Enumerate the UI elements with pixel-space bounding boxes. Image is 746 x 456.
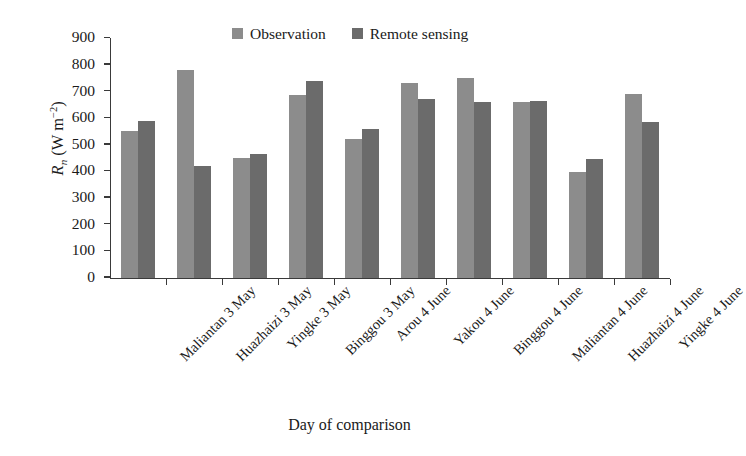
bar-observation — [345, 139, 362, 277]
bar-observation — [289, 95, 306, 277]
x-axis-category-label: Yakou 4 June — [451, 283, 517, 349]
y-axis-tick-label: 100 — [72, 243, 95, 259]
bar-observation — [625, 94, 642, 278]
y-axis-tick: 200 — [104, 223, 110, 224]
y-axis-tick: 600 — [104, 117, 110, 118]
y-axis-tick-label: 700 — [72, 83, 95, 99]
y-axis-tick: 100 — [104, 250, 110, 251]
y-axis-tick-label: 800 — [72, 56, 95, 72]
bar-remote-sensing — [642, 122, 659, 278]
y-axis-tick: 700 — [104, 90, 110, 91]
bar-remote-sensing — [586, 159, 603, 277]
bar-observation — [457, 78, 474, 278]
y-axis-line — [110, 38, 111, 279]
bar-remote-sensing — [530, 101, 547, 278]
plot-area: 9008007006005004003002001000 — [110, 38, 670, 279]
y-axis-tick-label: 200 — [72, 216, 95, 232]
bar-observation — [121, 131, 138, 277]
y-axis-tick-label: 600 — [72, 109, 95, 125]
y-axis-title: Rn (W m−2) — [49, 101, 70, 175]
bar-remote-sensing — [194, 166, 211, 278]
bar-remote-sensing — [138, 121, 155, 278]
y-axis-symbol: R — [48, 165, 67, 175]
y-axis-tick: 500 — [104, 143, 110, 144]
y-axis-tick-label: 400 — [72, 163, 95, 179]
y-axis-tick: 800 — [104, 63, 110, 64]
y-axis-tick-label: 900 — [72, 30, 95, 46]
y-axis-tick: 0 — [104, 276, 110, 277]
bar-remote-sensing — [362, 129, 379, 278]
bar-remote-sensing — [250, 154, 267, 278]
bar-observation — [233, 158, 250, 278]
bar-observation — [513, 102, 530, 278]
bar-group — [121, 38, 155, 278]
bar-group — [177, 38, 211, 278]
bar-group — [289, 38, 323, 278]
y-axis-units-exponent: −2 — [48, 107, 59, 118]
y-axis-units-close: ) — [48, 101, 67, 107]
y-axis-tick-label: 500 — [72, 136, 95, 152]
y-axis-units-open: (W m — [48, 118, 67, 160]
bar-remote-sensing — [306, 81, 323, 278]
bar-group — [345, 38, 379, 278]
x-axis-category-labels: Maliantan 3 MayHuazhaizi 3 MayYingke 3 M… — [110, 283, 670, 408]
y-axis-tick: 900 — [104, 37, 110, 38]
bar-group — [233, 38, 267, 278]
bar-group — [513, 38, 547, 278]
bar-remote-sensing — [474, 102, 491, 278]
bar-group — [625, 38, 659, 278]
y-axis-tick: 400 — [104, 170, 110, 171]
bar-observation — [177, 70, 194, 278]
bar-group — [401, 38, 435, 278]
y-axis-tick-label: 300 — [72, 189, 95, 205]
y-axis-subscript: n — [57, 160, 69, 166]
bar-remote-sensing — [418, 99, 435, 277]
y-axis-tick-label: 0 — [87, 269, 95, 285]
bar-observation — [401, 83, 418, 277]
x-axis-title: Day of comparison — [0, 416, 699, 434]
bar-group — [457, 38, 491, 278]
bar-observation — [569, 172, 586, 277]
x-axis-tick — [670, 279, 671, 285]
bar-group — [569, 38, 603, 278]
y-axis-tick: 300 — [104, 196, 110, 197]
